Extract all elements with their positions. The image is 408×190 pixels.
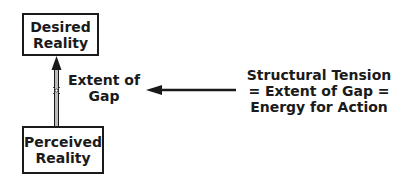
arrowhead-up-icon bbox=[52, 56, 62, 70]
extent-of-gap-label: Extent of Gap bbox=[66, 72, 142, 104]
arrowhead-left-icon bbox=[146, 85, 162, 95]
desired-reality-node: DesiredReality bbox=[22, 13, 99, 56]
perceived-reality-node: PerceivedReality bbox=[22, 126, 104, 174]
flow-pipe-fill bbox=[55, 70, 58, 126]
structural-tension-annotation: Structural Tension = Extent of Gap = Ene… bbox=[234, 67, 404, 115]
